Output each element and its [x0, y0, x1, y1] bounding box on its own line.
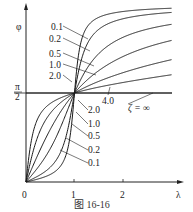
lower-labels: 2.0 1.0 0.5 0.2 0.1: [88, 105, 100, 168]
zeta-infinity-label: ζ = ∞: [128, 103, 150, 114]
label-lower-0-2: 0.2: [88, 145, 100, 155]
x-axis-arrow-icon: [177, 180, 184, 184]
y-axis-label: φ: [16, 22, 22, 32]
pi-denominator: 2: [15, 92, 20, 102]
upper-labels: 0.1 0.2 0.5 1.0 2.0: [49, 22, 63, 81]
origin-label: 0: [22, 190, 27, 200]
x-tick-2-label: 2: [120, 190, 125, 200]
label-upper-1-0: 1.0: [49, 60, 61, 70]
x-axis-label: λ: [176, 190, 181, 200]
curves: [26, 8, 172, 182]
figure-caption: 图 16-16: [74, 199, 110, 210]
label-lower-2-0: 2.0: [88, 105, 100, 115]
label-upper-0-5: 0.5: [49, 49, 61, 59]
curve-zeta-0-1: [26, 8, 172, 182]
label-upper-2-0: 2.0: [49, 71, 61, 81]
label-upper-0-2: 0.2: [49, 34, 61, 44]
phase-frequency-chart: φ λ 0 1 2 π 2 ζ = ∞ 4.0 0.1 0.2 0.5 1.0 …: [0, 0, 193, 212]
label-lower-1-0: 1.0: [88, 119, 100, 129]
y-axis-arrow-icon: [24, 3, 28, 10]
label-lower-0-5: 0.5: [88, 131, 100, 141]
pi-numerator: π: [15, 82, 20, 92]
label-lower-0-1: 0.1: [88, 158, 100, 168]
label-4-0: 4.0: [102, 96, 114, 106]
label-upper-0-1: 0.1: [51, 22, 63, 32]
curve-zeta-0-2: [26, 12, 172, 182]
